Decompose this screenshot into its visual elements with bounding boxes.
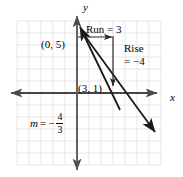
slope-equals-sign: = [40, 118, 46, 129]
run-annotation: Run = 3 [86, 24, 122, 35]
rise-annotation-line1: Rise [124, 42, 145, 55]
rise-annotation-line2: = −4 [124, 55, 145, 68]
slope-negative-sign: − [48, 118, 54, 129]
y-axis-label: y [83, 2, 88, 13]
slope-annotation: m = − 4 3 [30, 112, 63, 135]
slope-denominator: 3 [56, 125, 63, 135]
figure-canvas: y x (0, 5) (3, 1) Run = 3 Rise = −4 m = … [0, 0, 183, 177]
point-label-3-1: (3, 1) [78, 83, 102, 94]
x-axis-label: x [170, 92, 175, 103]
slope-variable: m [30, 118, 38, 129]
slope-numerator: 4 [56, 112, 63, 122]
point-label-0-5: (0, 5) [41, 39, 65, 50]
plotted-line [80, 27, 120, 110]
rise-annotation: Rise = −4 [124, 42, 145, 67]
slope-fraction: 4 3 [56, 112, 63, 135]
